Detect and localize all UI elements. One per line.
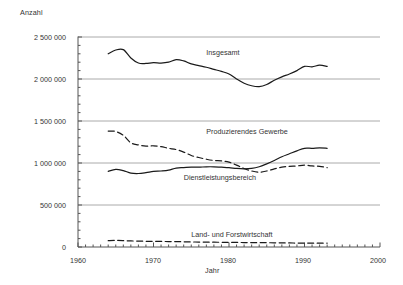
- series-label-produzierendes-gewerbe: Produzierendes Gewerbe: [206, 127, 288, 136]
- series-label-dienstleistungsbereich: Dienstleistungsbereich: [184, 173, 256, 182]
- chart-container: Anzahl Jahr 2 500 000 2 000 000 1 500 00…: [0, 0, 403, 285]
- series-label-land-und-forstwirtschaft: Land- und Forstwirtschaft: [191, 230, 272, 239]
- series-label-insgesamt: Insgesamt: [206, 48, 239, 57]
- plot-area: [0, 0, 403, 285]
- series-line: [108, 240, 327, 243]
